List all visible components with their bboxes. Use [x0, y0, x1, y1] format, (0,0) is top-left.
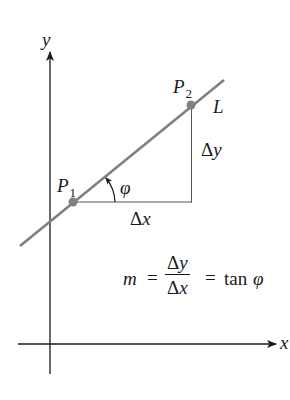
- formula-eq2: =: [205, 268, 216, 287]
- point-p2: [187, 101, 196, 110]
- diagram-graphics: [0, 0, 290, 400]
- line-label: L: [213, 97, 224, 116]
- delta-y-var: y: [213, 139, 221, 160]
- delta-x-label: Δx: [130, 209, 151, 228]
- p1-label: P1: [57, 176, 76, 195]
- y-axis-label: y: [42, 30, 50, 49]
- numerator-var: y: [179, 252, 187, 273]
- delta-x-var: x: [142, 208, 150, 229]
- angle-arc: [106, 178, 115, 202]
- delta-y-label: Δy: [201, 140, 222, 159]
- p2-label: P2: [173, 77, 192, 96]
- formula-denominator: Δx: [167, 275, 188, 297]
- p1-name: P: [57, 175, 69, 196]
- delta-y-delta: Δ: [201, 139, 213, 160]
- formula-phi: φ: [253, 269, 264, 288]
- delta-x-delta: Δ: [130, 208, 142, 229]
- denominator-var: x: [179, 277, 187, 298]
- formula-eq1: =: [147, 268, 158, 287]
- slope-formula: m = Δy Δx = tan φ: [123, 253, 283, 303]
- formula-lhs: m: [123, 269, 137, 288]
- p2-name: P: [173, 76, 185, 97]
- numerator-delta: Δ: [167, 252, 179, 273]
- slope-diagram: y x L P1 P2 φ Δx Δy m = Δy Δx = tan φ: [0, 0, 290, 400]
- formula-fraction: Δy Δx: [165, 253, 190, 297]
- p1-subscript: 1: [70, 185, 77, 200]
- formula-tan: tan: [224, 269, 247, 288]
- formula-numerator: Δy: [165, 253, 190, 275]
- angle-label: φ: [120, 178, 131, 197]
- denominator-delta: Δ: [167, 277, 179, 298]
- p2-subscript: 2: [186, 86, 193, 101]
- x-axis-label: x: [280, 333, 288, 352]
